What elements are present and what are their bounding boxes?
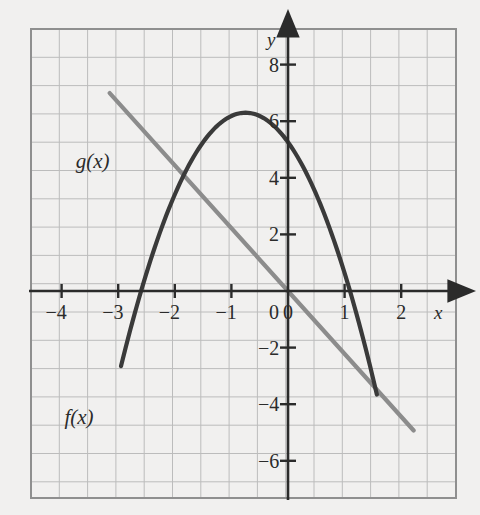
y-tick-label: 6 [269, 111, 279, 131]
y-tick-label: −6 [258, 451, 279, 471]
origin-label: 0 [269, 302, 279, 322]
x-tick-label: 1 [340, 302, 350, 322]
curve-label-g: g(x) [76, 151, 110, 172]
coordinate-plane [0, 0, 480, 515]
figure-background [0, 0, 480, 515]
y-tick-label: −4 [258, 394, 279, 414]
x-tick-label: −1 [215, 302, 236, 322]
y-tick-label: −2 [258, 338, 279, 358]
curve-label-f: f(x) [64, 407, 93, 428]
x-tick-label: −4 [46, 302, 67, 322]
x-tick-label: 0 [283, 302, 293, 322]
y-tick-label: 4 [269, 168, 279, 188]
y-tick-label: 8 [269, 55, 279, 75]
graph-figure: x y f(x) g(x) −4−3−2−10128642−2−4−60 [0, 0, 480, 515]
x-tick-label: −2 [159, 302, 180, 322]
x-axis-label: x [434, 303, 442, 322]
y-tick-label: 2 [269, 224, 279, 244]
x-tick-label: 2 [396, 302, 406, 322]
y-axis-label: y [267, 30, 275, 49]
x-tick-label: −3 [102, 302, 123, 322]
